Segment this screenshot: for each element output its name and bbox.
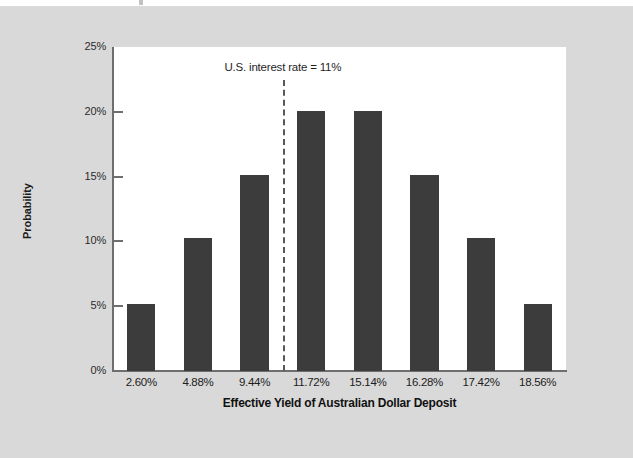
- y-axis-tick-label: 10%: [60, 234, 106, 246]
- y-axis-tick-label: 20%: [60, 105, 106, 117]
- x-axis-tick-label: 18.56%: [509, 376, 566, 388]
- chart-figure: 0%5%10%15%20%25% Probability U.S. intere…: [0, 0, 633, 458]
- us-interest-rate-annotation: U.S. interest rate = 11%: [168, 61, 398, 73]
- bar: [297, 111, 325, 371]
- x-axis-line: [112, 370, 567, 372]
- x-axis-tick-label: 2.60%: [113, 376, 170, 388]
- bar: [524, 304, 552, 371]
- y-axis-tick-label: 15%: [60, 170, 106, 182]
- us-interest-rate-line: [283, 80, 285, 371]
- y-axis-tick-mark: [114, 176, 123, 178]
- y-axis-tick-label: 25%: [60, 40, 106, 52]
- x-axis-tick-label: 11.72%: [283, 376, 340, 388]
- page-artifact-mark: [139, 0, 143, 5]
- y-axis-tick-mark: [114, 240, 123, 242]
- bar: [410, 175, 438, 371]
- bar: [354, 111, 382, 371]
- x-axis-tick-label: 4.88%: [170, 376, 227, 388]
- y-axis-line: [112, 47, 114, 372]
- x-axis-tick-label: 16.28%: [396, 376, 453, 388]
- y-axis-tick-mark: [114, 305, 123, 307]
- plot-area: [113, 47, 566, 371]
- bar: [184, 238, 212, 371]
- y-axis-title: Probability: [21, 166, 33, 256]
- x-axis-tick-label: 17.42%: [453, 376, 510, 388]
- y-axis-tick-labels: 0%5%10%15%20%25%: [58, 0, 106, 458]
- bar: [467, 238, 495, 371]
- y-axis-tick-label: 5%: [60, 299, 106, 311]
- y-axis-tick-mark: [114, 111, 123, 113]
- bar: [127, 304, 155, 371]
- x-axis-title: Effective Yield of Australian Dollar Dep…: [113, 396, 566, 410]
- bar: [240, 175, 268, 371]
- x-axis-tick-label: 15.14%: [340, 376, 397, 388]
- y-axis-tick-label: 0%: [60, 364, 106, 376]
- x-axis-tick-label: 9.44%: [226, 376, 283, 388]
